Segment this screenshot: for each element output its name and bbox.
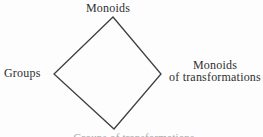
diagram-canvas: Monoids Groups Monoids of transformation… bbox=[0, 0, 263, 137]
diamond-outline bbox=[54, 17, 161, 129]
label-monoids: Monoids bbox=[79, 2, 137, 14]
label-monoids-of-transformations-line2: of transformations bbox=[169, 71, 261, 83]
label-groups: Groups bbox=[4, 67, 41, 79]
label-monoids-of-transformations: Monoids of transformations bbox=[169, 59, 261, 83]
label-bottom-clipped: Groups of transformations bbox=[72, 131, 196, 137]
